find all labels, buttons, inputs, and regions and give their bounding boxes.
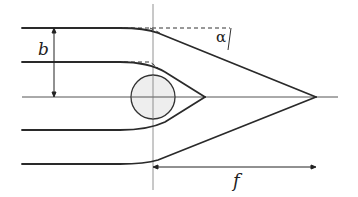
ray-diagram <box>0 0 358 197</box>
label-alpha: α <box>216 30 226 45</box>
label-b: b <box>38 41 49 58</box>
ray-fourth <box>22 97 205 130</box>
ray-second <box>22 62 205 97</box>
label-f: f <box>233 172 240 190</box>
alpha-angle-tick <box>228 28 231 50</box>
focal-length-arrow <box>153 165 316 169</box>
